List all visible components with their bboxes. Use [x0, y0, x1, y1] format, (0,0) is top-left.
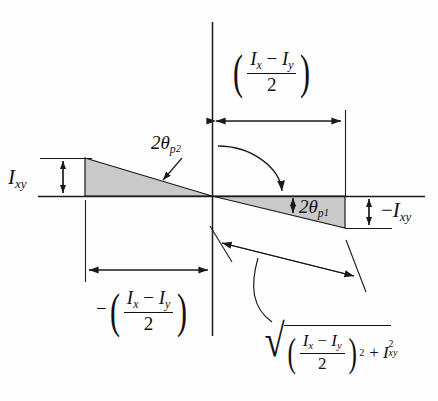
top-right-expression: (Ix − Iy2) [230, 44, 314, 99]
radical-sign: √ [265, 322, 285, 360]
diagonal-dimension-line-rev [222, 243, 354, 276]
theta-p2-arc [218, 146, 282, 191]
radical-leader-curve [254, 258, 272, 322]
left-shear-triangle [85, 158, 212, 196]
ixy-left-label: Ixy [8, 165, 27, 192]
mohrs-circle-inertia-diagram: Ixy −Ixy 2θp2 2θp1 (Ix − Iy2) −(Ix − Iy2… [0, 0, 438, 401]
theta-p2-label: 2θp2 [151, 132, 181, 157]
radical-body: (Ix − Iy2)2 + I2xy [284, 325, 390, 376]
ixy-right-label: −Ixy [381, 198, 411, 225]
theta-p1-label: 2θp1 [299, 196, 329, 221]
radical-expression: √ (Ix − Iy2)2 + I2xy [262, 322, 391, 376]
bottom-left-expression: −(Ix − Iy2) [96, 283, 190, 338]
diagonal-tick-start [210, 226, 232, 262]
diagonal-tick-end [346, 240, 366, 292]
theta-p2-leader [163, 158, 182, 180]
